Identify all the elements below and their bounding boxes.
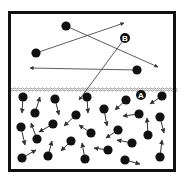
- liquid-molecule: [99, 104, 108, 113]
- liquid-molecule: [30, 108, 39, 117]
- label-a: A: [138, 91, 144, 100]
- vapor-motion-arrow: [30, 68, 133, 70]
- liquid-motion-arrow: [64, 118, 73, 126]
- liquid-molecule: [134, 109, 143, 118]
- liquid-motion-arrow: [82, 143, 84, 155]
- liquid-molecule: [103, 145, 112, 154]
- liquid-molecule: [66, 136, 75, 145]
- liquid-molecule: [127, 138, 136, 147]
- surface-wave: [10, 90, 178, 91]
- liquid-motion-arrow: [147, 118, 148, 131]
- liquid-motion-arrow: [94, 148, 104, 149]
- liquid-molecule: [32, 134, 41, 143]
- liquid-molecule: [120, 155, 129, 164]
- liquid-molecule: [157, 91, 166, 100]
- evaporation-diagram: BA: [0, 0, 184, 180]
- water-surface: [10, 88, 178, 91]
- liquid-molecule: [86, 128, 95, 137]
- liquid-motion-arrow: [105, 113, 107, 126]
- liquid-motion-arrow: [161, 121, 164, 133]
- liquid-motion-arrow: [39, 126, 49, 132]
- vapor-molecule: [31, 48, 40, 57]
- surface-wave: [10, 88, 178, 89]
- liquid-molecule: [143, 130, 152, 139]
- liquid-molecule: [16, 122, 25, 131]
- liquid-motion-arrow: [106, 132, 115, 138]
- liquid-motion-arrow: [36, 97, 40, 109]
- liquid-molecule: [80, 154, 89, 163]
- liquid-molecule: [18, 92, 27, 101]
- liquid-molecule: [121, 95, 130, 104]
- liquid-motion-arrow: [56, 103, 59, 115]
- liquid-motion-arrow: [117, 140, 128, 142]
- liquid-motion-arrow: [160, 140, 162, 153]
- liquid-motion-arrow: [22, 101, 23, 113]
- liquid-motion-arrow: [49, 141, 52, 152]
- label-b: B: [122, 34, 128, 43]
- liquid-motion-arrow: [79, 125, 88, 131]
- liquid-molecule: [155, 112, 164, 121]
- liquid-motion-arrow: [61, 144, 68, 151]
- vapor-motion-arrow: [40, 23, 124, 52]
- liquid-molecule: [48, 119, 57, 128]
- vapor-motion-arrow: [70, 28, 158, 67]
- liquid-motion-arrow: [31, 123, 36, 135]
- vapor-molecule: [132, 65, 141, 74]
- liquid-motion-arrow: [123, 115, 135, 116]
- liquid-motion-arrow: [26, 150, 36, 156]
- liquid-molecule: [113, 125, 122, 134]
- liquid-motion-arrow: [87, 101, 88, 113]
- liquid-motion-arrow: [115, 103, 123, 110]
- liquid-molecule: [50, 94, 59, 103]
- vapor-molecule: [61, 21, 70, 30]
- liquid-motion-arrow: [150, 98, 159, 104]
- liquid-molecule: [155, 152, 164, 161]
- liquid-molecule: [17, 153, 26, 162]
- liquid-motion-arrow: [129, 161, 140, 164]
- liquid-molecule: [43, 151, 52, 160]
- liquid-motion-arrow: [22, 131, 25, 145]
- liquid-molecule: [82, 92, 91, 101]
- liquid-molecule: [71, 110, 80, 119]
